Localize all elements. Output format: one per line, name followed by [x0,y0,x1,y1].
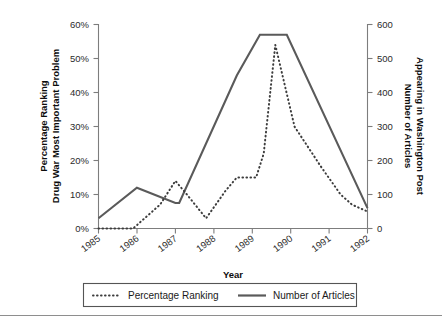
legend: Percentage Ranking Number of Articles [84,284,357,307]
y-left-tick-label: 0% [75,223,89,234]
y-left-tick-label: 10% [70,189,90,200]
x-tick-label: 1988 [194,233,218,254]
y-right-tick-label: 200 [377,155,393,166]
y-left-tick-label: 50% [70,53,90,64]
x-tick-label: 1991 [309,233,333,254]
y-left-tick-label: 20% [70,155,90,166]
x-tick-label: 1989 [232,233,256,254]
y-axis-right-ticks: 600 500 400 300 200 100 0 [368,19,393,234]
y-right-tick-label: 100 [377,189,393,200]
chart-figure: 60% 50% 40% 30% 20% 10% 0% 600 500 400 3… [0,0,442,319]
y-left-tick-label: 30% [70,121,90,132]
x-tick-label: 1990 [271,233,295,254]
y-left-tick-label: 40% [70,87,90,98]
legend-label-number-of-articles: Number of Articles [273,290,355,301]
x-axis-title: Year [223,269,243,280]
y-right-tick-label: 500 [377,53,393,64]
y-right-tick-label: 600 [377,19,393,30]
y-axis-right-title-line2: Appearing in Washington Post [415,57,426,196]
legend-label-percentage-ranking: Percentage Ranking [128,290,219,301]
x-tick-label: 1987 [156,233,180,254]
y-axis-left-title-line2: Drug War Most Important Problem [50,49,61,203]
series-number-of-articles [99,35,368,219]
y-right-tick-label: 400 [377,87,393,98]
x-axis-ticks: 1985 1986 1987 1988 1989 1990 1991 1992 [79,229,372,255]
y-right-tick-label: 300 [377,121,393,132]
x-tick-label: 1986 [117,233,141,254]
y-right-tick-label: 0 [377,223,382,234]
x-tick-label: 1985 [79,233,103,254]
series-percentage-ranking [99,45,368,229]
x-tick-label: 1992 [348,233,372,254]
y-axis-left-ticks: 60% 50% 40% 30% 20% 10% 0% [70,19,99,234]
y-axis-left-title-line1: Percentage Ranking [38,80,49,172]
y-left-tick-label: 60% [70,19,90,30]
y-axis-right-title-line1: Number of Articles [403,84,414,169]
axes-group [99,24,368,229]
